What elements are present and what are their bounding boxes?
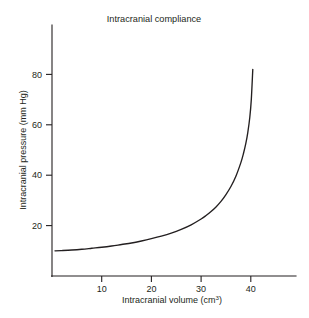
y-tick-label: 40 <box>32 170 42 180</box>
y-axis-ticks: 20406080 <box>32 70 52 231</box>
chart-title: Intracranial compliance <box>107 14 201 24</box>
x-tick-label: 40 <box>246 284 256 294</box>
y-tick-label: 20 <box>32 221 42 231</box>
x-tick-label: 10 <box>97 284 107 294</box>
x-axis-label-tail: ) <box>219 295 222 305</box>
y-tick-label: 80 <box>32 70 42 80</box>
x-tick-label: 20 <box>146 284 156 294</box>
x-axis-ticks: 10203040 <box>97 276 256 294</box>
x-tick-label: 30 <box>196 284 206 294</box>
x-axis-label-base: Intracranial volume (cm <box>122 295 216 305</box>
pressure-volume-curve <box>55 69 253 250</box>
x-axis-label: Intracranial volume (cm3) <box>122 294 222 305</box>
y-tick-label: 60 <box>32 120 42 130</box>
y-axis-label: Intracranial pressure (mm Hg) <box>18 90 28 210</box>
intracranial-compliance-chart: Intracranial compliance 20406080 1020304… <box>0 0 309 318</box>
chart-figure: Intracranial compliance 20406080 1020304… <box>0 0 309 318</box>
